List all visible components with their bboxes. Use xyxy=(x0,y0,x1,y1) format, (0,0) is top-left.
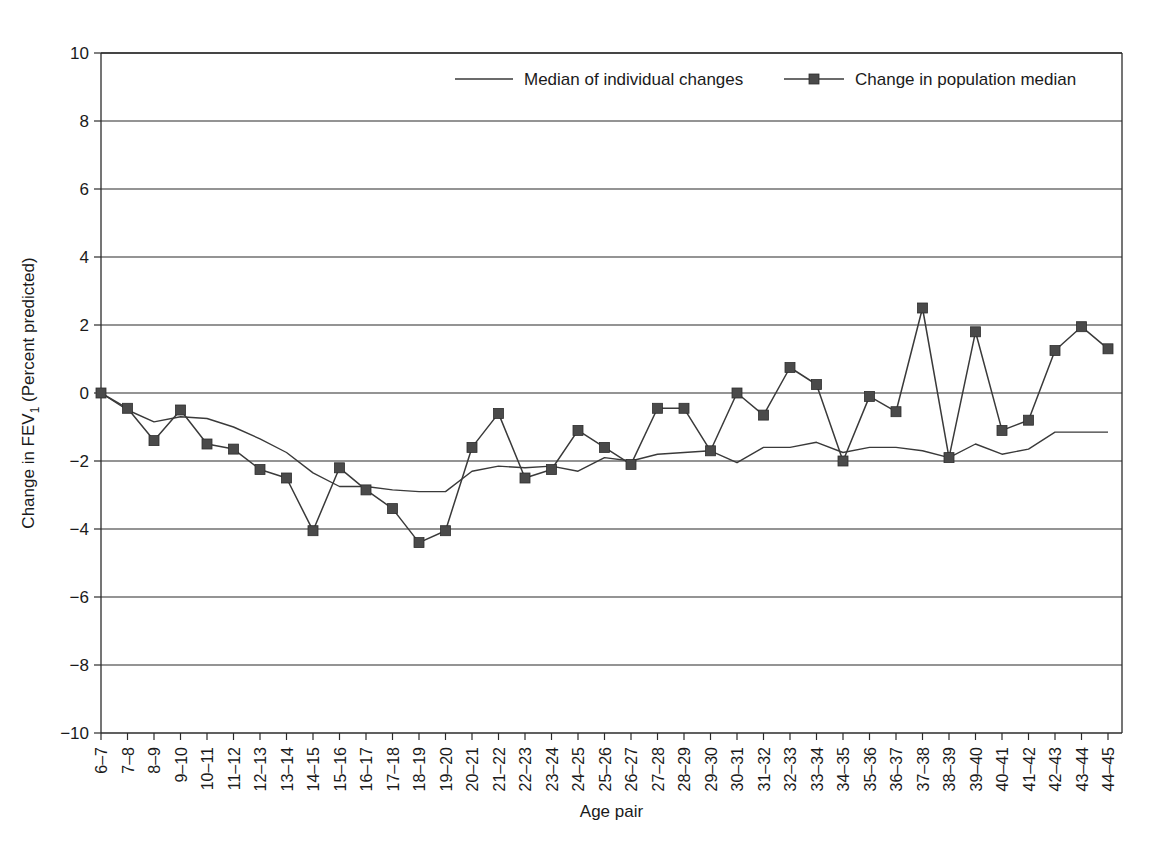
y-tick-label: −2 xyxy=(70,452,89,471)
data-point-marker xyxy=(441,526,451,536)
x-tick-label: 39–40 xyxy=(968,747,985,792)
chart-legend: Median of individual changesChange in po… xyxy=(455,70,1076,89)
data-point-marker xyxy=(414,538,424,548)
data-point-marker xyxy=(785,363,795,373)
chart-canvas: 1086420−2−4−6−8−10 6–77–88–99–1010–1111–… xyxy=(0,0,1161,855)
data-point-marker xyxy=(388,504,398,514)
x-axis-ticks-group: 6–77–88–99–1010–1111–1212–1313–1414–1515… xyxy=(93,733,1117,792)
data-point-marker xyxy=(96,388,106,398)
data-point-marker xyxy=(944,453,954,463)
x-tick-label: 23–24 xyxy=(544,747,561,792)
x-tick-label: 12–13 xyxy=(252,747,269,792)
x-tick-label: 18–19 xyxy=(411,747,428,792)
x-tick-label: 29–30 xyxy=(703,747,720,792)
data-point-marker xyxy=(626,459,636,469)
y-tick-label: 8 xyxy=(80,112,89,131)
data-point-marker xyxy=(176,405,186,415)
data-point-marker xyxy=(971,327,981,337)
x-tick-label: 34–35 xyxy=(835,747,852,792)
x-tick-label: 16–17 xyxy=(358,747,375,792)
data-point-marker xyxy=(335,463,345,473)
data-point-marker xyxy=(202,439,212,449)
x-tick-label: 25–26 xyxy=(597,747,614,792)
x-tick-label: 11–12 xyxy=(226,747,243,790)
legend-label-population-median: Change in population median xyxy=(855,70,1076,89)
y-tick-label: −8 xyxy=(70,656,89,675)
series-group xyxy=(96,303,1113,548)
x-tick-label: 10–11 xyxy=(199,747,216,790)
y-axis-title: Change in FEV1 (Percent predicted) xyxy=(19,257,42,528)
x-tick-label: 7–8 xyxy=(120,747,137,774)
x-tick-label: 35–36 xyxy=(862,747,879,792)
x-tick-label: 38–39 xyxy=(941,747,958,792)
x-tick-label: 32–33 xyxy=(782,747,799,792)
data-point-marker xyxy=(1024,415,1034,425)
data-point-marker xyxy=(149,436,159,446)
data-point-marker xyxy=(1050,346,1060,356)
data-point-marker xyxy=(467,442,477,452)
x-tick-label: 27–28 xyxy=(650,747,667,792)
data-point-marker xyxy=(918,303,928,313)
y-axis-ticks-group: 1086420−2−4−6−8−10 xyxy=(60,44,101,743)
data-point-marker xyxy=(653,403,663,413)
x-tick-label: 43–44 xyxy=(1074,747,1091,792)
data-point-marker xyxy=(706,446,716,456)
data-point-marker xyxy=(494,408,504,418)
x-tick-label: 31–32 xyxy=(756,747,773,792)
x-tick-label: 15–16 xyxy=(332,747,349,792)
series-line-population-median xyxy=(101,308,1108,543)
x-tick-label: 28–29 xyxy=(676,747,693,792)
data-point-marker xyxy=(865,391,875,401)
x-tick-label: 6–7 xyxy=(93,747,110,774)
x-tick-label: 30–31 xyxy=(729,747,746,792)
data-point-marker xyxy=(547,465,557,475)
data-point-marker xyxy=(308,526,318,536)
data-point-marker xyxy=(600,442,610,452)
x-tick-label: 33–34 xyxy=(809,747,826,792)
x-tick-label: 8–9 xyxy=(146,747,163,774)
legend-swatch-marker-icon xyxy=(809,74,819,84)
x-tick-label: 21–22 xyxy=(491,747,508,792)
x-tick-label: 24–25 xyxy=(570,747,587,792)
data-point-marker xyxy=(1077,322,1087,332)
x-tick-label: 44–45 xyxy=(1100,747,1117,792)
data-point-marker xyxy=(1103,344,1113,354)
data-point-marker xyxy=(679,403,689,413)
gridlines-group xyxy=(101,53,1122,665)
x-tick-label: 14–15 xyxy=(305,747,322,792)
x-tick-label: 40–41 xyxy=(994,747,1011,792)
data-point-marker xyxy=(812,380,822,390)
data-point-marker xyxy=(891,407,901,417)
axis-titles-group: Age pairChange in FEV1 (Percent predicte… xyxy=(19,257,643,821)
x-tick-label: 17–18 xyxy=(385,747,402,792)
data-point-marker xyxy=(282,473,292,483)
x-tick-label: 22–23 xyxy=(517,747,534,792)
x-tick-label: 37–38 xyxy=(915,747,932,792)
x-tick-label: 9–10 xyxy=(173,747,190,783)
data-point-marker xyxy=(759,410,769,420)
data-point-marker xyxy=(997,425,1007,435)
data-point-marker xyxy=(229,444,239,454)
data-point-marker xyxy=(255,465,265,475)
x-tick-label: 42–43 xyxy=(1047,747,1064,792)
x-tick-label: 13–14 xyxy=(279,747,296,792)
x-tick-label: 20–21 xyxy=(464,747,481,792)
y-tick-label: −6 xyxy=(70,588,89,607)
y-tick-label: −10 xyxy=(60,724,89,743)
data-point-marker xyxy=(123,403,133,413)
y-tick-label: 10 xyxy=(70,44,89,63)
y-tick-label: 0 xyxy=(80,384,89,403)
x-tick-label: 19–20 xyxy=(438,747,455,792)
x-tick-label: 26–27 xyxy=(623,747,640,792)
x-tick-label: 36–37 xyxy=(888,747,905,792)
data-point-marker xyxy=(838,456,848,466)
y-tick-label: 4 xyxy=(80,248,89,267)
legend-label-median-individual: Median of individual changes xyxy=(524,70,743,89)
chart-figure: 1086420−2−4−6−8−10 6–77–88–99–1010–1111–… xyxy=(0,0,1161,855)
data-point-marker xyxy=(573,425,583,435)
data-point-marker xyxy=(361,485,371,495)
y-tick-label: 2 xyxy=(80,316,89,335)
x-tick-label: 41–42 xyxy=(1021,747,1038,792)
x-axis-title: Age pair xyxy=(580,802,644,821)
y-tick-label: −4 xyxy=(70,520,89,539)
